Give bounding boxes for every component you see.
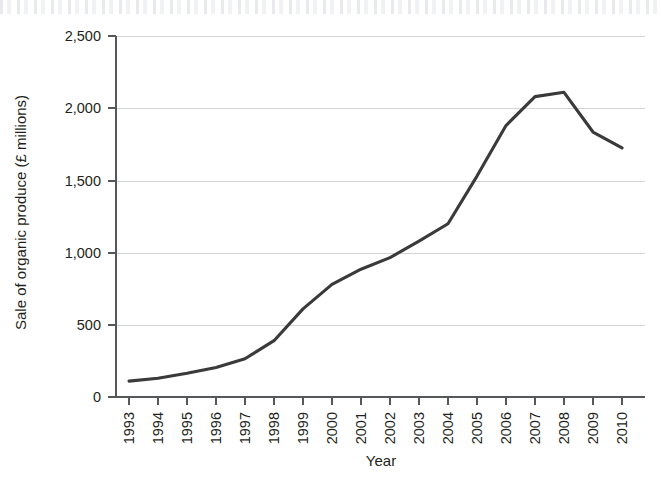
x-tick-label: 2003 <box>411 412 427 444</box>
y-axis-title: Sale of organic produce (£ millions) <box>12 95 29 330</box>
x-tick-label: 2004 <box>440 412 456 444</box>
x-tick-label: 2002 <box>382 412 398 444</box>
x-tick-label: 1994 <box>150 412 166 444</box>
x-tick-label: 1996 <box>208 412 224 444</box>
y-tick-label: 2,500 <box>65 28 101 44</box>
line-chart: 2,500 2,000 1,500 1,000 500 0 <box>0 0 661 478</box>
data-series-line <box>129 92 622 381</box>
gridlines <box>116 36 645 325</box>
x-tick-label: 1999 <box>295 412 311 444</box>
y-tick-labels: 2,500 2,000 1,500 1,000 500 0 <box>65 28 101 405</box>
x-axis-title: Year <box>366 452 396 469</box>
x-tick-label: 2008 <box>556 412 572 444</box>
y-tick-label: 1,500 <box>65 173 101 189</box>
x-tick-label: 2001 <box>353 412 369 444</box>
y-tick-label: 500 <box>77 317 101 333</box>
x-tick-marks <box>129 397 622 405</box>
chart-figure: 2,500 2,000 1,500 1,000 500 0 <box>0 0 661 478</box>
x-tick-label: 2007 <box>527 412 543 444</box>
y-tick-label: 2,000 <box>65 100 101 116</box>
y-tick-marks <box>108 36 116 397</box>
x-tick-label: 2005 <box>469 412 485 444</box>
x-tick-label: 1995 <box>179 412 195 444</box>
x-tick-label: 2010 <box>614 412 630 444</box>
y-tick-label: 0 <box>93 389 101 405</box>
x-tick-label: 2006 <box>498 412 514 444</box>
x-tick-label: 1998 <box>266 412 282 444</box>
x-tick-label: 2009 <box>585 412 601 444</box>
x-tick-label: 1997 <box>237 412 253 444</box>
x-tick-label: 2000 <box>324 412 340 444</box>
x-tick-label: 1993 <box>121 412 137 444</box>
y-tick-label: 1,000 <box>65 245 101 261</box>
x-tick-labels: 1993 1994 1995 1996 1997 1998 1999 2000 … <box>121 412 630 444</box>
